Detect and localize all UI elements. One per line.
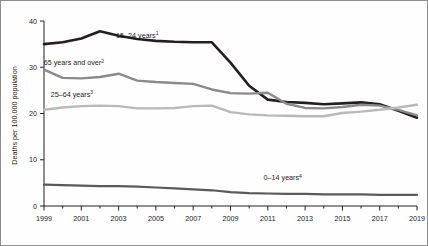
- x-axis-tick-label: 2015: [334, 214, 350, 223]
- y-axis-tick-label: 40: [29, 17, 37, 26]
- x-axis-tick-label: 2019: [409, 214, 425, 223]
- x-axis-tick-label: 2005: [148, 214, 164, 223]
- series-label-25-64-years: 25–64 years3: [51, 89, 94, 99]
- x-axis-tick-label: 1999: [36, 214, 52, 223]
- x-axis-tick-label: 2017: [372, 214, 388, 223]
- series-line-25-64-years: [44, 105, 417, 117]
- x-axis-tick-label: 2001: [73, 214, 89, 223]
- x-axis-tick-label: 2009: [223, 214, 239, 223]
- series-label-15-24-years: 15–24 years1: [116, 30, 159, 40]
- x-axis-tick-label: 2013: [297, 214, 313, 223]
- series-line-65-years-and-over: [44, 70, 417, 116]
- y-axis-tick-label: 20: [29, 109, 37, 118]
- line-chart: 0102030401999200120032005200720092011201…: [1, 1, 428, 246]
- x-axis-tick-label: 2003: [111, 214, 127, 223]
- series-label-65-years-and-over: 65 years and over2: [44, 58, 105, 68]
- y-axis-tick-label: 10: [29, 155, 37, 164]
- x-axis-tick-label: 2011: [260, 214, 275, 223]
- y-axis-tick-label: 30: [29, 63, 37, 72]
- series-label-0-14-years: 0–14 years4: [264, 173, 303, 183]
- x-axis-tick-label: 2007: [185, 214, 201, 223]
- y-axis-tick-label: 0: [33, 202, 37, 211]
- chart-figure: 0102030401999200120032005200720092011201…: [0, 0, 428, 246]
- y-axis-title: Deaths per 100,000 population: [10, 66, 19, 164]
- series-line-0-14-years: [44, 185, 417, 195]
